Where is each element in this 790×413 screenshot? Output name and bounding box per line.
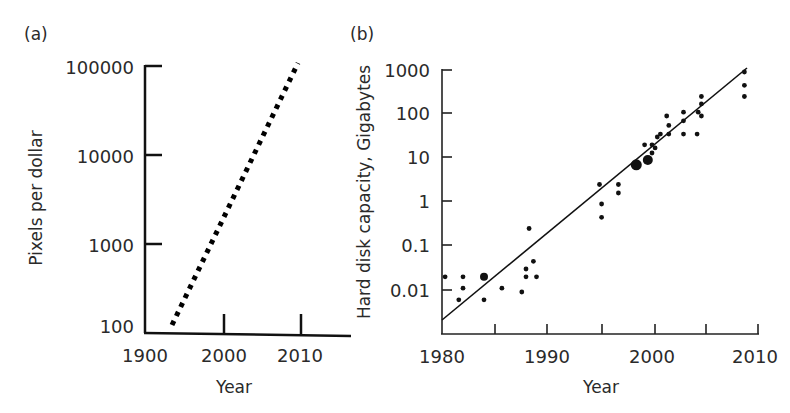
y-tick-label: 100 bbox=[100, 316, 134, 337]
data-point bbox=[599, 215, 604, 220]
y-tick-label: 0.01 bbox=[390, 280, 430, 301]
panel-a-label: (a) bbox=[24, 24, 48, 44]
data-point bbox=[681, 118, 686, 123]
scatter-points bbox=[443, 70, 747, 303]
data-point bbox=[643, 155, 653, 165]
data-point bbox=[534, 274, 539, 279]
x-tick-label: 1900 bbox=[122, 345, 168, 366]
data-point bbox=[658, 132, 663, 137]
y-tick-label: 1000 bbox=[384, 60, 430, 81]
data-point bbox=[531, 259, 536, 264]
y-tick-label: 1000 bbox=[88, 235, 134, 256]
x-axis bbox=[144, 333, 351, 336]
panel-b-label: (b) bbox=[350, 24, 374, 44]
data-point bbox=[461, 286, 466, 291]
data-point bbox=[480, 273, 488, 281]
data-point bbox=[519, 290, 524, 295]
data-point bbox=[742, 94, 747, 99]
y-tick-label: 100 bbox=[396, 103, 430, 124]
y-tick-label: 0.1 bbox=[401, 235, 430, 256]
y-tick-label: 100000 bbox=[65, 57, 134, 78]
y-axis-title: Hard disk capacity, Gigabytes bbox=[354, 65, 374, 319]
data-point bbox=[616, 191, 621, 196]
data-point bbox=[681, 132, 686, 137]
y-axis-title: Pixels per dollar bbox=[26, 130, 46, 265]
data-point bbox=[642, 142, 647, 147]
data-point bbox=[597, 182, 602, 187]
data-point bbox=[664, 114, 669, 119]
data-point bbox=[666, 132, 671, 137]
data-point bbox=[500, 286, 505, 291]
x-tick-label: 1980 bbox=[419, 346, 465, 367]
data-point bbox=[524, 267, 529, 272]
data-point bbox=[653, 146, 658, 151]
figure: (a) 100000 10000 1000 100 1900 2000 2010… bbox=[0, 0, 790, 413]
x-axis-title: Year bbox=[582, 377, 619, 397]
x-tick-label: 2010 bbox=[277, 345, 323, 366]
panel-b: (b) 1000 100 10 1 0.1 0.01 1 bbox=[350, 24, 778, 397]
y-tick-label: 10 bbox=[407, 147, 430, 168]
panel-a: (a) 100000 10000 1000 100 1900 2000 2010… bbox=[24, 24, 351, 397]
x-tick-label: 2000 bbox=[629, 346, 675, 367]
data-point bbox=[616, 182, 621, 187]
data-point bbox=[599, 202, 604, 207]
data-point bbox=[524, 274, 529, 279]
data-point bbox=[699, 102, 704, 107]
x-tick-label: 2010 bbox=[732, 346, 778, 367]
x-axis-title: Year bbox=[215, 377, 252, 397]
data-point bbox=[699, 94, 704, 99]
data-point bbox=[666, 123, 671, 128]
y-tick-label: 1 bbox=[419, 191, 430, 212]
trend-line-dotted bbox=[172, 63, 298, 325]
x-ticks bbox=[495, 324, 758, 334]
x-tick-label: 2000 bbox=[201, 345, 247, 366]
y-ticks bbox=[442, 70, 452, 290]
data-point bbox=[650, 151, 655, 156]
data-point bbox=[482, 297, 487, 302]
data-point bbox=[527, 226, 532, 231]
data-point bbox=[631, 159, 642, 170]
data-point bbox=[699, 114, 704, 119]
data-point bbox=[461, 274, 466, 279]
data-point bbox=[742, 70, 747, 75]
data-point bbox=[696, 110, 701, 115]
y-tick-label: 10000 bbox=[77, 146, 134, 167]
data-point bbox=[695, 132, 700, 137]
data-point bbox=[443, 274, 448, 279]
x-tick-label: 1990 bbox=[524, 346, 570, 367]
data-point bbox=[681, 110, 686, 115]
data-point bbox=[456, 297, 461, 302]
data-point bbox=[742, 83, 747, 88]
